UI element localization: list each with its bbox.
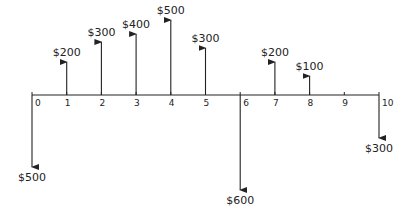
cash-flow-amount: $300 — [192, 32, 220, 45]
cash-flow-period-5: $300 — [192, 32, 220, 95]
cash-flow-amount: $300 — [87, 26, 115, 39]
cash-flow-period-7: $200 — [261, 46, 289, 95]
period-label-5: 5 — [204, 98, 210, 108]
cash-flow-amount: $100 — [296, 60, 324, 73]
cash-flow-diagram: 012345678910 $500$200$300$400$500$300$60… — [0, 0, 408, 207]
cash-flow-amount: $500 — [157, 4, 185, 17]
period-label-2: 2 — [99, 98, 105, 108]
cash-flow-amount: $600 — [226, 194, 254, 207]
cash-flow-amount: $400 — [122, 18, 150, 31]
cash-flow-period-0: $500 — [18, 95, 46, 184]
cash-flow-period-3: $400 — [122, 18, 150, 95]
cash-flow-amount: $200 — [53, 46, 81, 59]
cash-flow-amount: $300 — [365, 142, 393, 155]
period-label-9: 9 — [342, 98, 348, 108]
period-label-6: 6 — [243, 98, 249, 108]
cash-flow-period-1: $200 — [53, 46, 81, 95]
period-label-4: 4 — [169, 98, 175, 108]
period-label-7: 7 — [273, 98, 279, 108]
period-label-8: 8 — [308, 98, 314, 108]
cash-flow-period-2: $300 — [87, 26, 115, 95]
cash-flow-period-6: $600 — [226, 95, 254, 207]
cash-flow-amount: $500 — [18, 171, 46, 184]
period-label-3: 3 — [134, 98, 140, 108]
cash-flow-period-4: $500 — [157, 4, 185, 95]
cash-flow-amount: $200 — [261, 46, 289, 59]
period-label-1: 1 — [65, 98, 71, 108]
period-label-10: 10 — [382, 98, 394, 108]
period-label-0: 0 — [35, 98, 41, 108]
cash-flow-period-8: $100 — [296, 60, 324, 95]
